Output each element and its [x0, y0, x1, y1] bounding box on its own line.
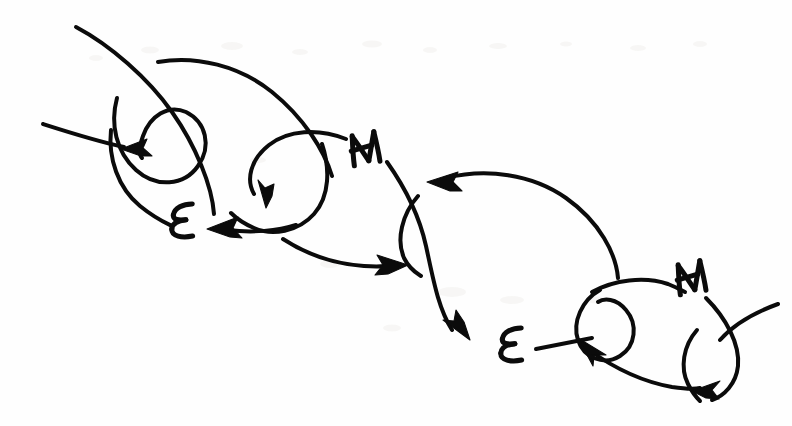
loop-unit-2: [207, 132, 470, 340]
stroke-inner-loop-2: [231, 144, 327, 232]
stroke-right-entry-3: [720, 304, 778, 340]
label-e-1: [169, 204, 195, 239]
stroke-inner-loop-3: [576, 290, 633, 360]
stroke-upper-bow-1: [158, 60, 332, 176]
arrow-left-to-e1-icon: [207, 217, 242, 238]
paper-noise: [89, 41, 707, 332]
loop-unit-3: [427, 172, 778, 401]
letter-labels: [169, 131, 706, 362]
label-m-2: [675, 260, 706, 294]
stroke-descend-2: [283, 239, 392, 266]
arrow-left-upper-icon: [121, 139, 152, 156]
label-m-1: [349, 131, 380, 165]
stroke-bow-to-m2: [592, 280, 685, 292]
em-chain-diagram: [0, 0, 792, 426]
label-e-2: [498, 328, 524, 363]
stroke-upper-bow-3: [446, 173, 618, 278]
stroke-inner-loop-1: [114, 98, 205, 182]
arrow-down-mid-icon: [258, 180, 274, 208]
sketch-canvas: Hand-drawn electromagnetic chain sketch …: [0, 0, 792, 426]
loop-unit-1: [43, 27, 332, 226]
stroke-upper-bow-2: [250, 132, 346, 194]
arrow-left-upper-2-icon: [427, 172, 462, 191]
